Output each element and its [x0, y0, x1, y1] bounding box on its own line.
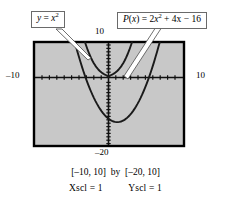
callout-p-rest: + 4x − 16 [162, 14, 201, 24]
leader-pointer-p-of-x [124, 27, 162, 79]
callout-y-equals-x-squared: y = x2 [31, 11, 65, 28]
leader-pointer-y-squared [56, 29, 91, 60]
callout-p-equals-coef: = 2 [139, 14, 154, 24]
callout-y-equals: = [41, 13, 51, 23]
callout-y-exponent: 2 [56, 11, 59, 18]
callout-leader-lines [0, 0, 231, 201]
graphing-calculator-figure: y = x2 P(x) = 2x2 + 4x − 16 10 –10 10 –2… [0, 0, 231, 201]
callout-p-of-x-formula: P(x) = 2x2 + 4x − 16 [117, 12, 207, 29]
